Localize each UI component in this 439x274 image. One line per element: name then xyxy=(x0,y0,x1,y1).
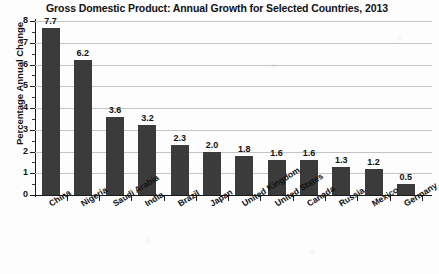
plot-area: 7.76.23.63.22.32.01.81.61.61.31.20.5 xyxy=(35,21,432,195)
y-tick-label: 6 xyxy=(2,59,28,69)
bar-column xyxy=(74,21,92,195)
y-minor-tick-mark xyxy=(32,162,35,163)
bar-column xyxy=(268,21,286,195)
y-tick-label: 7 xyxy=(2,37,28,47)
y-tick-label: 2 xyxy=(2,146,28,156)
y-tick-label: 5 xyxy=(2,80,28,90)
chart-title: Gross Domestic Product: Annual Growth fo… xyxy=(0,2,434,14)
bar-column xyxy=(235,21,253,195)
bar xyxy=(106,117,124,195)
bar-column xyxy=(365,21,383,195)
bar-column xyxy=(300,21,318,195)
bar-value-label: 1.2 xyxy=(357,157,391,167)
y-tick-label: 4 xyxy=(2,102,28,112)
bar-value-label: 7.7 xyxy=(34,16,68,26)
bar-column xyxy=(42,21,60,195)
bar xyxy=(365,169,383,195)
bar xyxy=(203,152,221,196)
y-tick-mark xyxy=(30,195,35,196)
x-tick-mark xyxy=(325,196,326,201)
y-minor-tick-mark xyxy=(32,184,35,185)
bar-column xyxy=(397,21,415,195)
y-tick-mark xyxy=(30,108,35,109)
y-minor-tick-mark xyxy=(32,119,35,120)
bar-value-label: 1.6 xyxy=(260,148,294,158)
bar-value-label: 3.2 xyxy=(130,113,164,123)
bar-value-label: 3.6 xyxy=(98,105,132,115)
bar-value-label: 1.8 xyxy=(227,144,261,154)
y-minor-tick-mark xyxy=(32,141,35,142)
bar-column xyxy=(171,21,189,195)
bar-value-label: 6.2 xyxy=(66,48,100,58)
bar xyxy=(74,60,92,195)
y-minor-tick-mark xyxy=(32,75,35,76)
y-tick-mark xyxy=(30,173,35,174)
bar-value-label: 1.6 xyxy=(292,148,326,158)
y-tick-mark xyxy=(30,43,35,44)
x-tick-mark xyxy=(164,196,165,201)
y-tick-mark xyxy=(30,130,35,131)
x-tick-mark xyxy=(131,196,132,201)
y-tick-mark xyxy=(30,152,35,153)
y-tick-mark xyxy=(30,21,35,22)
y-minor-tick-mark xyxy=(32,32,35,33)
bar-column xyxy=(332,21,350,195)
x-tick-mark xyxy=(67,196,68,201)
y-axis-tick-labels: 012345678 xyxy=(0,0,28,274)
bar-column xyxy=(138,21,156,195)
y-tick-mark xyxy=(30,65,35,66)
y-tick-label: 1 xyxy=(2,167,28,177)
bar-value-label: 1.3 xyxy=(324,155,358,165)
x-tick-mark xyxy=(99,196,100,201)
y-tick-mark xyxy=(30,86,35,87)
y-tick-label: 8 xyxy=(2,15,28,25)
x-tick-mark xyxy=(357,196,358,201)
bar xyxy=(42,28,60,195)
x-tick-mark xyxy=(196,196,197,201)
x-tick-mark xyxy=(293,196,294,201)
x-tick-mark xyxy=(260,196,261,201)
y-tick-label: 0 xyxy=(2,189,28,199)
x-tick-mark xyxy=(422,196,423,201)
bar xyxy=(235,156,253,195)
y-tick-label: 3 xyxy=(2,124,28,134)
bar xyxy=(171,145,189,195)
x-tick-mark xyxy=(390,196,391,201)
bar-value-label: 0.5 xyxy=(389,172,423,182)
bar-column xyxy=(203,21,221,195)
x-tick-mark xyxy=(228,196,229,201)
y-minor-tick-mark xyxy=(32,97,35,98)
bar-value-label: 2.0 xyxy=(195,140,229,150)
y-minor-tick-mark xyxy=(32,54,35,55)
bar-value-label: 2.3 xyxy=(163,133,197,143)
